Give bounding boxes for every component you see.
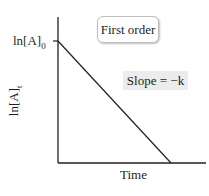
data-line (58, 41, 171, 163)
slope-text: Slope = −k (127, 73, 184, 88)
x-axis-label: Time (120, 167, 147, 183)
chart-title-box: First order (97, 16, 159, 43)
y-axis-label: ln[A]t (6, 84, 24, 118)
y-axis-subscript: t (14, 85, 24, 88)
y-tick-text: ln[A] (13, 33, 41, 48)
y-tick-label: ln[A]0 (13, 33, 46, 51)
y-tick-subscript: 0 (41, 41, 46, 51)
slope-annotation: Slope = −k (123, 71, 188, 90)
y-axis-text: ln[A] (6, 88, 21, 116)
